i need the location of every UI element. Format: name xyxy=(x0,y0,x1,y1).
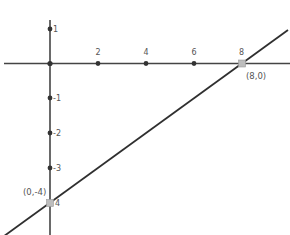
coordinate-plane: 2 4 6 8 1 -1 -2 -3 4 (8,0) (0,-4) xyxy=(0,0,290,235)
x-tick-label-8: 8 xyxy=(239,48,244,57)
y-tick-label-1: 1 xyxy=(53,25,58,34)
x-tick-point-4 xyxy=(144,61,149,66)
y-intercept-point[interactable] xyxy=(47,200,54,207)
origin-point xyxy=(47,61,52,66)
y-tick-point-m1 xyxy=(48,96,53,101)
y-tick-point-m2 xyxy=(48,131,53,136)
x-tick-label-2: 2 xyxy=(96,48,101,57)
x-tick-point-2 xyxy=(96,61,101,66)
y-tick-point-1 xyxy=(48,27,53,32)
y-tick-label-m1: -1 xyxy=(53,94,61,103)
y-tick-point-m3 xyxy=(48,166,53,171)
x-tick-label-4: 4 xyxy=(144,48,149,57)
y-tick-label-m3: -3 xyxy=(53,164,61,173)
x-tick-label-6: 6 xyxy=(192,48,197,57)
y-tick-label-m4: 4 xyxy=(55,199,60,208)
x-intercept-label: (8,0) xyxy=(246,71,266,81)
y-tick-label-m2: -2 xyxy=(53,129,61,138)
x-tick-point-6 xyxy=(192,61,197,66)
x-intercept-point[interactable] xyxy=(239,60,246,67)
y-intercept-label: (0,-4) xyxy=(23,187,46,197)
